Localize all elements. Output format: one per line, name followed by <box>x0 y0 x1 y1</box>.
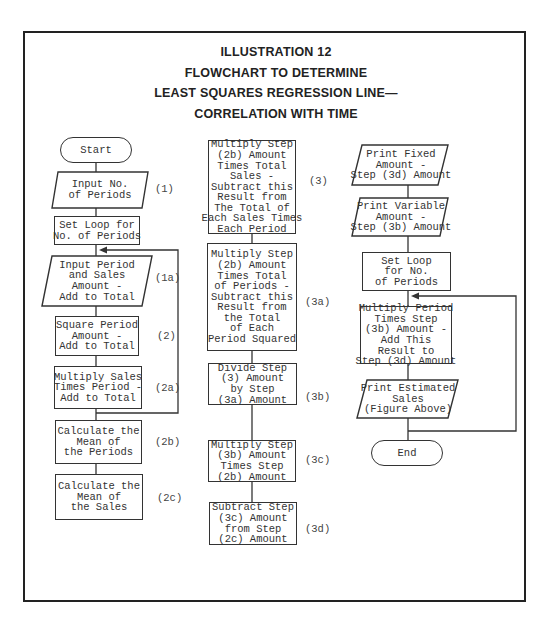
step-label-3a: (3a) <box>305 296 330 308</box>
multiply-period-node: Multiply Period Times Step (3b) Amount -… <box>360 306 452 364</box>
step-label-2: (2) <box>157 330 176 342</box>
start-label: Start <box>80 145 112 156</box>
step3a-label: Multiply Step (2b) Amount Times Total of… <box>208 249 296 344</box>
step-label-3b: (3b) <box>305 391 330 403</box>
set-loop-2-label: Set Loop for No. of Periods <box>375 256 438 288</box>
square-period-node: Square Period Amount - Add to Total <box>55 316 139 356</box>
start-terminal: Start <box>60 137 132 163</box>
step3c-node: Multiply Step (3b) Amount Times Step (2b… <box>208 440 296 482</box>
print-estimated-node: Print Estimated Sales (Figure Above) <box>363 380 453 418</box>
step-label-3: (3) <box>309 175 328 187</box>
step-label-1: (1) <box>155 183 174 195</box>
multiply-sales-label: Multiply Sales Times Period - Add to Tot… <box>54 372 142 404</box>
input-periods-label: Input No. of Periods <box>68 179 131 200</box>
step-label-2a: (2a) <box>155 382 180 394</box>
mean-periods-node: Calculate the Mean of the Periods <box>55 420 142 464</box>
print-fixed-label: Print Fixed Amount - Step (3d) Amount <box>351 149 452 181</box>
end-terminal: End <box>371 440 443 466</box>
step-label-1a: (1a) <box>155 272 180 284</box>
arrowhead-icon <box>99 247 107 254</box>
print-fixed-node: Print Fixed Amount - Step (3d) Amount <box>358 145 444 185</box>
step-label-2c: (2c) <box>157 492 182 504</box>
mean-sales-label: Calculate the Mean of the Sales <box>58 481 140 513</box>
step3a-node: Multiply Step (2b) Amount Times Total of… <box>207 243 297 351</box>
set-loop-2-node: Set Loop for No. of Periods <box>362 252 451 291</box>
input-period-sales-node: Input Period and Sales Amount - Add to T… <box>54 256 140 306</box>
step3-label: Multiply Step (2b) Amount Times Total Sa… <box>202 139 303 234</box>
print-estimated-label: Print Estimated Sales (Figure Above) <box>361 383 456 415</box>
step3b-label: Divide Step (3) Amount by Step (3a) Amou… <box>218 363 287 405</box>
multiply-period-label: Multiply Period Times Step (3b) Amount -… <box>356 303 457 367</box>
print-variable-label: Print Variable Amount - Step (3b) Amount <box>351 201 452 233</box>
step3d-node: Subtract Step (3c) Amount from Step (2c)… <box>209 502 297 545</box>
print-variable-node: Print Variable Amount - Step (3b) Amount <box>357 198 445 236</box>
square-period-label: Square Period Amount - Add to Total <box>56 320 138 352</box>
arrowhead-icon <box>411 293 419 300</box>
input-periods-node: Input No. of Periods <box>58 172 142 208</box>
multiply-sales-node: Multiply Sales Times Period - Add to Tot… <box>54 366 142 409</box>
step3d-label: Subtract Step (3c) Amount from Step (2c)… <box>212 502 294 544</box>
mean-periods-label: Calculate the Mean of the Periods <box>58 426 140 458</box>
step3c-label: Multiply Step (3b) Amount Times Step (2b… <box>211 440 293 482</box>
step-label-3d: (3d) <box>305 523 330 535</box>
set-loop-node: Set Loop for No. of Periods <box>54 216 140 245</box>
step-label-3c: (3c) <box>305 454 330 466</box>
mean-sales-node: Calculate the Mean of the Sales <box>55 474 143 520</box>
step-label-2b: (2b) <box>155 436 180 448</box>
end-label: End <box>398 448 417 459</box>
set-loop-label: Set Loop for No. of Periods <box>53 220 141 241</box>
step3-node: Multiply Step (2b) Amount Times Total Sa… <box>208 140 296 234</box>
step3b-node: Divide Step (3) Amount by Step (3a) Amou… <box>208 363 297 405</box>
input-period-sales-label: Input Period and Sales Amount - Add to T… <box>59 260 135 302</box>
